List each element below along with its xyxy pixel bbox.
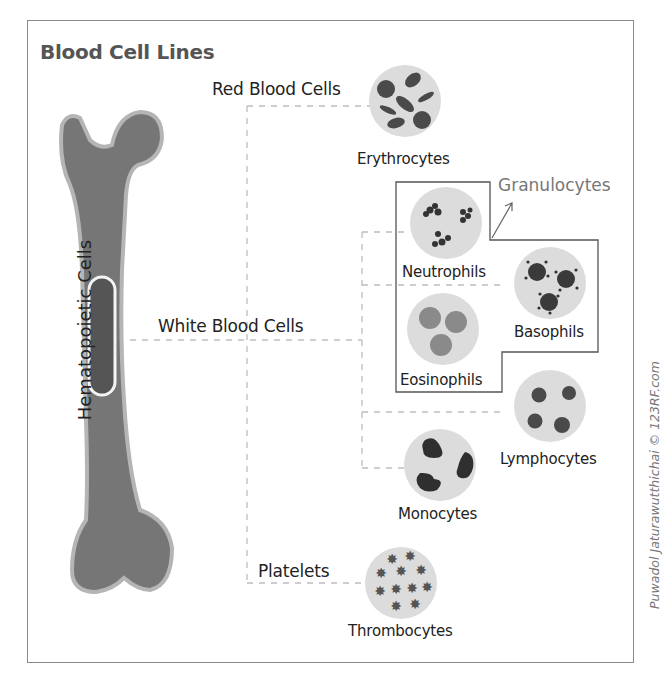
svg-text:✸: ✸ (390, 581, 402, 597)
white-blood-cells-label: White Blood Cells (158, 316, 303, 336)
svg-text:✸: ✸ (406, 580, 418, 596)
platelets-label: Platelets (258, 561, 329, 581)
neutrophils-cell-icon (410, 187, 482, 259)
page-title: Blood Cell Lines (40, 40, 214, 64)
eosinophils-label: Eosinophils (400, 371, 482, 389)
red-blood-cells-label: Red Blood Cells (212, 79, 341, 99)
thrombocytes-label: Thrombocytes (348, 622, 453, 640)
svg-text:✸: ✸ (375, 565, 387, 581)
granulocytes-label: Granulocytes (498, 175, 611, 195)
arrow-icon (492, 203, 512, 238)
neutrophils-label: Neutrophils (402, 263, 486, 281)
monocytes-label: Monocytes (398, 505, 477, 523)
svg-text:✸: ✸ (374, 583, 386, 599)
lymphocytes-cell-icon (514, 370, 586, 442)
basophils-label: Basophils (514, 323, 584, 341)
svg-text:✸: ✸ (390, 598, 402, 614)
lymphocytes-label: Lymphocytes (500, 450, 597, 468)
hematopoietic-cells-label: Hematopoietic Cells (74, 240, 95, 420)
basophils-cell-icon (514, 247, 586, 319)
eosinophils-cell-icon (407, 293, 479, 365)
svg-text:✸: ✸ (415, 562, 427, 578)
thrombocytes-cell-icon: ✸✸ ✸✸✸ ✸✸✸✸ ✸✸ (365, 547, 437, 619)
erythrocytes-cell-icon (369, 65, 441, 137)
svg-text:✸: ✸ (421, 579, 433, 595)
svg-text:✸: ✸ (409, 596, 421, 612)
svg-text:✸: ✸ (395, 563, 407, 579)
monocytes-cell-icon (404, 429, 476, 501)
image-credit: Puwadol Jaturawutthichai © 123RF.com (647, 361, 662, 609)
erythrocytes-label: Erythrocytes (357, 150, 450, 168)
